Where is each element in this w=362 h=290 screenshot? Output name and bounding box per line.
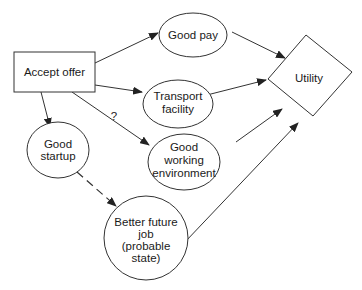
node-good-working-environment: Good working environment <box>148 134 220 190</box>
svg-text:Better future: Better future <box>114 216 177 228</box>
influence-diagram: ? Accept offer Good pay Transport facili… <box>0 0 362 290</box>
node-better-future-job: Better future job (probable state) <box>104 196 188 280</box>
edge-transport-to-utility <box>203 80 266 96</box>
edge-workenv-to-utility <box>236 109 282 142</box>
svg-text:environment: environment <box>152 167 216 179</box>
node-utility: Utility <box>268 35 352 116</box>
node-transport-facility: Transport facility <box>143 80 213 128</box>
edge-goodpay-to-utility <box>232 32 285 58</box>
svg-text:(probable: (probable <box>122 240 171 252</box>
svg-text:working: working <box>163 154 204 166</box>
svg-text:facility: facility <box>162 103 194 115</box>
node-good-pay: Good pay <box>159 13 227 57</box>
edge-accept-to-goodpay <box>95 33 158 63</box>
svg-text:Utility: Utility <box>295 72 323 84</box>
node-accept-offer: Accept offer <box>14 52 95 92</box>
svg-text:Accept offer: Accept offer <box>24 66 85 78</box>
svg-text:job: job <box>137 228 153 240</box>
svg-text:Transport: Transport <box>154 90 204 102</box>
edge-startup-to-futurejob <box>77 172 116 206</box>
edge-accept-to-startup <box>41 92 50 127</box>
svg-text:Good: Good <box>44 138 72 150</box>
svg-text:state): state) <box>132 252 161 264</box>
edge-label-question: ? <box>111 110 117 122</box>
svg-text:startup: startup <box>40 150 75 162</box>
edge-accept-to-transport <box>95 85 142 92</box>
node-good-startup: Good startup <box>27 122 89 178</box>
svg-text:Good: Good <box>170 141 198 153</box>
svg-text:Good pay: Good pay <box>168 29 218 41</box>
